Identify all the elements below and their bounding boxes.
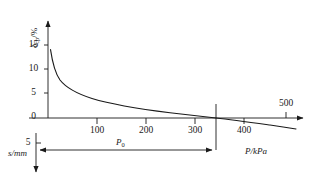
y-axis-label-unit: /% [29,28,39,38]
y-tick-label-10: 10 [25,63,42,73]
x-axis-label: P/kPa [245,146,267,156]
p0-annotation-label: P0 [116,137,125,147]
y-tick-label-5: 5 [25,87,42,97]
s-axis-label: s/mm [8,148,27,158]
x-tick-label-300: 300 [180,125,210,135]
figure-container: · ·· ···· · ··· ·· ····· ·· · ···· ··· ·… [0,0,314,181]
x-tick-label-500: 500 [271,98,301,108]
p0-annotation-symbol: P [116,137,122,147]
y-tick-label-0: 0 [25,111,42,121]
y-tick-label-15: 15 [25,39,42,49]
delta-cp-curve [51,50,297,130]
x-tick-label-100: 100 [82,125,112,135]
s-axis-tick-label-5: 5 [21,137,35,147]
x-tick-label-400: 400 [229,125,259,135]
x-tick-label-200: 200 [131,125,161,135]
p0-annotation-sub: 0 [122,141,125,148]
